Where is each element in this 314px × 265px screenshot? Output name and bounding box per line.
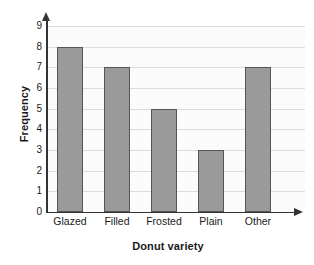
- bar: [151, 109, 177, 212]
- y-axis-line: [46, 20, 48, 213]
- gridline: [47, 26, 305, 27]
- y-axis-arrow-icon: [42, 12, 50, 21]
- bar: [245, 67, 271, 212]
- bar: [57, 47, 83, 212]
- gridline: [47, 47, 305, 48]
- bar: [104, 67, 130, 212]
- bar: [198, 150, 224, 212]
- x-axis-line: [46, 212, 295, 214]
- y-axis-tick-label: 1: [24, 186, 42, 196]
- x-axis-tick-label: Other: [226, 215, 290, 227]
- bar-chart: 0123456789 GlazedFilledFrostedPlainOther…: [0, 0, 314, 265]
- x-axis-arrow-icon: [294, 208, 303, 216]
- y-axis-tick-label: 9: [24, 21, 42, 31]
- y-axis-title: Frequency: [18, 44, 30, 184]
- x-axis-title: Donut variety: [34, 240, 302, 252]
